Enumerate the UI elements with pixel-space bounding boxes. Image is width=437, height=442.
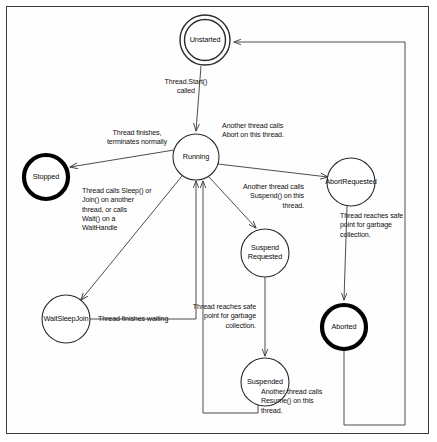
edge-start-line [196, 66, 201, 131]
edge-label-start: Thread.Start() called [151, 78, 221, 97]
node-label-suspended: Suspended [225, 377, 305, 386]
edge-label-terminate: Thread finishes, terminates normally [96, 129, 178, 148]
edge-label-suspend: Another thread calls Suspend() on this t… [224, 183, 304, 211]
node-label-aborted: Aborted [304, 322, 384, 331]
edge-label-finish-waiting: Thread finishes waiting [98, 315, 198, 324]
edge-label-abort-gc: Thread reaches safe point for garbage co… [340, 212, 424, 240]
node-label-unstarted: Unstarted [165, 35, 245, 44]
edge-label-wait: Thread calls Sleep() or Join() on anothe… [82, 187, 178, 233]
node-label-stopped: Stopped [6, 172, 86, 181]
edge-abort-line [218, 164, 328, 177]
diagram-page: Unstarted Running Stopped AbortRequested… [0, 0, 437, 442]
edge-label-resume: Another thread calls Resume() on this th… [261, 388, 341, 416]
node-label-abortrequested: AbortRequested [306, 177, 396, 186]
node-label-suspendrequested: Suspend Requested [225, 243, 305, 262]
node-label-waitsleepjoin: WaitSleepJoin [22, 314, 110, 323]
node-label-running: Running [156, 152, 236, 161]
edge-label-abort: Another thread calls Abort on this threa… [222, 122, 302, 141]
